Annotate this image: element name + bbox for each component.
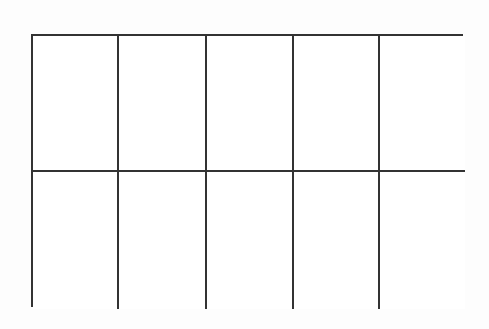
grid-cell-r1-c3 <box>207 36 294 172</box>
grid-cell-r1-c2 <box>119 36 207 172</box>
empty-grid-table <box>31 34 463 307</box>
grid-cell-r2-c2 <box>119 172 207 309</box>
grid-cell-r2-c1 <box>33 172 119 309</box>
grid-cell-r2-c5 <box>380 172 465 309</box>
grid-cell-r1-c1 <box>33 36 119 172</box>
grid-cell-r1-c4 <box>294 36 380 172</box>
grid-cell-r2-c3 <box>207 172 294 309</box>
grid-cell-r2-c4 <box>294 172 380 309</box>
grid-cell-r1-c5 <box>380 36 465 172</box>
